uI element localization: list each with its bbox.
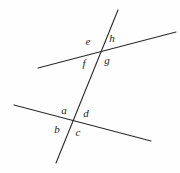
angle-label-d: d	[83, 108, 89, 119]
angle-label-b: b	[54, 124, 60, 135]
angle-label-e: e	[86, 36, 91, 47]
geometry-diagram: e h f g a d b c	[0, 0, 180, 173]
angle-label-h: h	[109, 33, 115, 44]
angle-label-a: a	[61, 105, 67, 116]
angle-label-c: c	[76, 127, 81, 138]
angle-label-f: f	[82, 58, 85, 69]
angle-label-g: g	[104, 55, 110, 66]
diagram-canvas	[0, 0, 180, 173]
